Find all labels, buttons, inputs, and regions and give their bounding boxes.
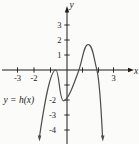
y-tick-label-pos2: 2	[57, 35, 61, 45]
y-tick-label-pos3: 3	[57, 20, 61, 30]
graph-canvas: x y -3 -2 3 3 2 1 -2 -3 -4 y	[0, 0, 139, 144]
function-graph-figure: x y -3 -2 3 3 2 1 -2 -3 -4 y	[0, 0, 139, 144]
y-axis-label: y	[69, 0, 75, 10]
x-tick-label-neg3: -3	[14, 73, 21, 83]
function-label: y = h(x)	[3, 95, 35, 106]
x-axis-label: x	[133, 66, 139, 76]
y-tick-label-neg4: -4	[49, 125, 57, 135]
x-tick-label-neg2: -2	[30, 73, 37, 83]
y-tick-label-neg2: -2	[49, 95, 56, 105]
y-tick-label-pos1: 1	[57, 50, 61, 60]
x-tick-label-pos3: 3	[111, 73, 115, 83]
y-tick-label-neg3: -3	[49, 110, 56, 120]
